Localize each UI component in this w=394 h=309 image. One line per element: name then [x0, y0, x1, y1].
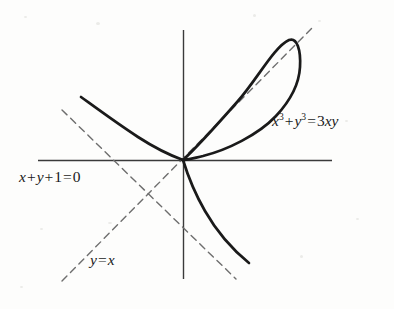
folium-lower-right-branch — [183, 160, 249, 263]
asymptote-eq-x: x — [19, 168, 26, 185]
folium-upper-left-branch — [81, 97, 183, 160]
curve-eq-plus: + — [284, 112, 295, 129]
symmetry-eq-equals: = — [97, 251, 108, 268]
curve-eq-x: x — [272, 112, 279, 129]
symmetry-eq-y: y — [90, 251, 97, 268]
plot-canvas — [0, 0, 394, 309]
asymptote-eq-equals: = — [62, 168, 73, 185]
symmetry-line-label: y=x — [90, 252, 115, 268]
curve-equation-label: x3+y3=3xy — [272, 113, 338, 129]
symmetry-eq-x: x — [108, 251, 115, 268]
curve-eq-x-exponent: 3 — [279, 111, 284, 122]
curve-figure: x3+y3=3xy x+y+1=0 y=x — [0, 0, 394, 309]
asymptote-eq-plus-1: + — [26, 168, 37, 185]
asymptote-eq-plus-2: + — [44, 168, 55, 185]
asymptote-eq-one: 1 — [54, 168, 62, 185]
asymptote-eq-y: y — [37, 168, 44, 185]
asymptote-equation-label: x+y+1=0 — [19, 169, 81, 185]
curve-eq-rhs-vars: xy — [325, 112, 339, 129]
curve-eq-coefficient: 3 — [317, 112, 325, 129]
curve-eq-equals: = — [306, 112, 317, 129]
asymptote-eq-zero: 0 — [73, 168, 81, 185]
